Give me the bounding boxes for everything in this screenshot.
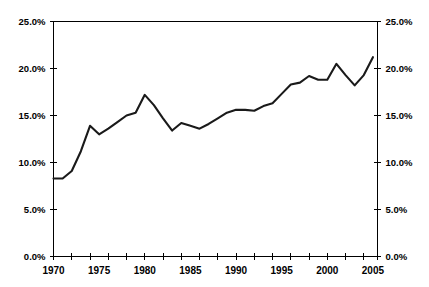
series-line bbox=[54, 57, 373, 178]
data-series bbox=[54, 57, 373, 178]
y-axis-left-tick-label: 10.0% bbox=[19, 157, 46, 168]
y-axis-left-tick-label: 0.0% bbox=[24, 251, 46, 262]
y-axis-left-tick-label: 15.0% bbox=[19, 110, 46, 121]
x-axis-tick-label: 1990 bbox=[225, 265, 248, 276]
x-axis-tick-label: 2005 bbox=[362, 265, 385, 276]
chart-container: 0.0%5.0%10.0%15.0%20.0%25.0% 0.0%5.0%10.… bbox=[0, 0, 429, 287]
plot-frame bbox=[54, 22, 378, 257]
x-axis-tick-label: 1980 bbox=[134, 265, 157, 276]
y-axis-left-tick-label: 25.0% bbox=[19, 16, 46, 27]
x-axis-tick-label: 1970 bbox=[42, 265, 65, 276]
y-axis-right-tick-label: 5.0% bbox=[386, 204, 408, 215]
y-axis-right-tick-label: 25.0% bbox=[386, 16, 413, 27]
x-axis-tick-label: 1975 bbox=[88, 265, 111, 276]
x-axis-tick-label: 1985 bbox=[179, 265, 202, 276]
y-axis-left-tick-label: 5.0% bbox=[24, 204, 46, 215]
line-chart: 0.0%5.0%10.0%15.0%20.0%25.0% 0.0%5.0%10.… bbox=[0, 0, 429, 287]
y-axis-right-labels: 0.0%5.0%10.0%15.0%20.0%25.0% bbox=[386, 16, 413, 262]
y-axis-right-tick-label: 20.0% bbox=[386, 63, 413, 74]
axis-ticks bbox=[50, 22, 381, 261]
x-axis-labels: 19701975198019851990199520002005 bbox=[42, 265, 384, 276]
y-axis-right-tick-label: 0.0% bbox=[386, 251, 408, 262]
y-axis-left-labels: 0.0%5.0%10.0%15.0%20.0%25.0% bbox=[19, 16, 46, 262]
x-axis-tick-label: 2000 bbox=[316, 265, 339, 276]
x-axis-tick-label: 1995 bbox=[271, 265, 294, 276]
y-axis-right-tick-label: 15.0% bbox=[386, 110, 413, 121]
y-axis-left-tick-label: 20.0% bbox=[19, 63, 46, 74]
y-axis-right-tick-label: 10.0% bbox=[386, 157, 413, 168]
